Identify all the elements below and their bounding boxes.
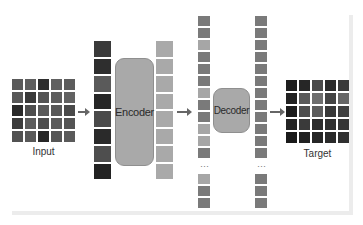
input-patch-tile (64, 118, 75, 129)
decoder-input-token (198, 124, 210, 134)
encoded-token (156, 146, 173, 162)
input-image-grid (12, 79, 75, 142)
encoded-token (156, 76, 173, 92)
decoder-output-token (255, 76, 267, 86)
target-patch-tile (286, 132, 297, 143)
encoded-token (156, 59, 173, 75)
decoder-input-token (198, 198, 210, 208)
input-patch-tile (38, 105, 49, 116)
encoded-token (156, 94, 173, 110)
ellipsis-icon: ⋮ (198, 160, 210, 172)
decoder-output-token (255, 124, 267, 134)
decoder-input-token (198, 186, 210, 196)
input-patch-tile (38, 79, 49, 90)
decoder-label: Decoder (214, 105, 250, 116)
input-patch-tile (51, 131, 62, 142)
decoder-block: Decoder (213, 88, 250, 133)
input-patch-tile (25, 79, 36, 90)
target-image-grid (286, 80, 349, 143)
input-patch-tile (51, 79, 62, 90)
decoder-input-token (198, 64, 210, 74)
decoder-output-token (255, 112, 267, 122)
input-patch-tile (38, 118, 49, 129)
decoder-output-token (255, 100, 267, 110)
decoder-output-token (255, 28, 267, 38)
ellipsis-icon: ⋮ (255, 160, 267, 172)
target-patch-tile (312, 119, 323, 130)
target-patch-tile (286, 80, 297, 91)
target-patch-tile (312, 106, 323, 117)
encoded-token (156, 111, 173, 127)
target-patch-tile (299, 80, 310, 91)
input-patch-tile (12, 92, 23, 103)
target-patch-tile (338, 80, 349, 91)
image-patch-token (94, 111, 111, 127)
target-patch-tile (325, 80, 336, 91)
input-patch-tile (64, 105, 75, 116)
target-patch-tile (338, 119, 349, 130)
input-patch-tile (12, 105, 23, 116)
input-patch-tile (64, 131, 75, 142)
decoder-output-token (255, 174, 267, 184)
decoder-output-token (255, 88, 267, 98)
input-patch-tile (64, 79, 75, 90)
input-patch-tile (25, 105, 36, 116)
input-patch-tile (25, 118, 36, 129)
image-patch-token (94, 164, 111, 180)
target-patch-tile (338, 93, 349, 104)
target-label: Target (286, 148, 349, 159)
target-patch-tile (312, 132, 323, 143)
image-patch-token (94, 76, 111, 92)
encoder-label: Encoder (115, 106, 154, 118)
input-patch-tile (38, 131, 49, 142)
decoder-output-token (255, 52, 267, 62)
input-patch-tile (51, 105, 62, 116)
target-patch-tile (286, 119, 297, 130)
input-patch-tile (38, 92, 49, 103)
image-patch-token (94, 94, 111, 110)
image-patch-token (94, 129, 111, 145)
decoder-input-token (198, 112, 210, 122)
decoder-input-token (198, 52, 210, 62)
target-patch-tile (312, 93, 323, 104)
target-patch-tile (325, 132, 336, 143)
input-patch-tile (12, 118, 23, 129)
target-patch-tile (286, 93, 297, 104)
decoder-input-token (198, 28, 210, 38)
decoder-input-token (198, 136, 210, 146)
decoder-input-token (198, 76, 210, 86)
encoded-token (156, 129, 173, 145)
image-patch-token (94, 59, 111, 75)
encoded-token-sequence (156, 41, 173, 180)
decoder-output-sequence: ⋮ (255, 16, 267, 208)
encoded-token (156, 41, 173, 57)
decoder-input-token (198, 174, 210, 184)
input-patch-tile (12, 131, 23, 142)
decoder-output-token (255, 186, 267, 196)
patch-sequence (94, 41, 111, 180)
input-patch-tile (64, 92, 75, 103)
arrow-input-to-patches (78, 111, 86, 113)
target-patch-tile (299, 93, 310, 104)
input-patch-tile (25, 92, 36, 103)
decoder-output-token (255, 64, 267, 74)
input-patch-tile (25, 131, 36, 142)
arrow-encoder-to-decoder-input (177, 111, 188, 113)
target-patch-tile (325, 119, 336, 130)
decoder-input-token (198, 100, 210, 110)
target-patch-tile (338, 132, 349, 143)
decoder-output-token (255, 40, 267, 50)
target-patch-tile (286, 106, 297, 117)
target-patch-tile (299, 106, 310, 117)
decoder-input-token (198, 40, 210, 50)
encoded-token (156, 164, 173, 180)
target-patch-tile (299, 119, 310, 130)
image-patch-token (94, 146, 111, 162)
decoder-input-token (198, 88, 210, 98)
decoder-output-token (255, 198, 267, 208)
target-patch-tile (325, 93, 336, 104)
target-patch-tile (338, 106, 349, 117)
input-patch-tile (12, 79, 23, 90)
input-patch-tile (51, 118, 62, 129)
decoder-input-sequence: ⋮ (198, 16, 210, 208)
